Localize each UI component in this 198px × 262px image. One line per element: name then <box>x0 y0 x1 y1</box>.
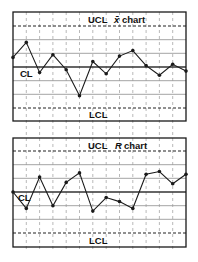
r-data-point <box>38 175 42 179</box>
r-data-point <box>64 181 68 185</box>
xbar-title-suffix: chart <box>122 14 146 25</box>
r-lcl-label: LCL <box>89 235 108 246</box>
xbar-series-line <box>13 42 186 95</box>
r-ucl-label: UCL <box>88 140 108 151</box>
xbar-data-point <box>25 41 29 45</box>
r-data-point <box>91 209 95 213</box>
r-data-point <box>118 200 122 204</box>
xbar-data-point <box>144 64 148 68</box>
xbar-data-point <box>11 56 15 60</box>
r-data-point <box>78 171 82 175</box>
xbar-data-point <box>184 69 188 73</box>
r-title-symbol: R <box>115 140 122 151</box>
r-data-point <box>11 190 15 194</box>
r-title-suffix: chart <box>124 140 148 151</box>
r-data-point <box>184 172 188 176</box>
r-data-point <box>51 204 55 208</box>
r-chart: UCL R chart CL LCL <box>11 138 188 247</box>
xbar-data-point <box>158 73 162 77</box>
r-data-point <box>25 207 29 211</box>
control-chart-figure: UCL x̄ chart CL LCL UCL R chart CL LCL <box>0 0 198 262</box>
r-data-point <box>104 196 108 200</box>
xbar-cl-label: CL <box>20 68 33 79</box>
r-cl-label: CL <box>18 192 31 203</box>
r-data-point <box>171 182 175 186</box>
xbar-ucl-label: UCL <box>88 14 108 25</box>
xbar-title-symbol: x̄ <box>113 14 120 25</box>
xbar-data-point <box>64 68 68 72</box>
xbar-data-point <box>38 71 42 75</box>
xbar-data-point <box>131 49 135 53</box>
xbar-data-point <box>118 54 122 58</box>
xbar-chart: UCL x̄ chart CL LCL <box>11 12 188 121</box>
xbar-data-point <box>91 60 95 64</box>
xbar-data-point <box>51 53 55 57</box>
vertical-guide-lines <box>26 12 172 250</box>
r-data-point <box>158 170 162 174</box>
xbar-lcl-label: LCL <box>89 109 108 120</box>
r-data-point <box>131 207 135 211</box>
xbar-data-point <box>78 94 82 98</box>
r-data-point <box>144 172 148 176</box>
xbar-data-point <box>171 63 175 67</box>
r-reference-lines <box>13 151 186 233</box>
xbar-data-point <box>104 72 108 76</box>
